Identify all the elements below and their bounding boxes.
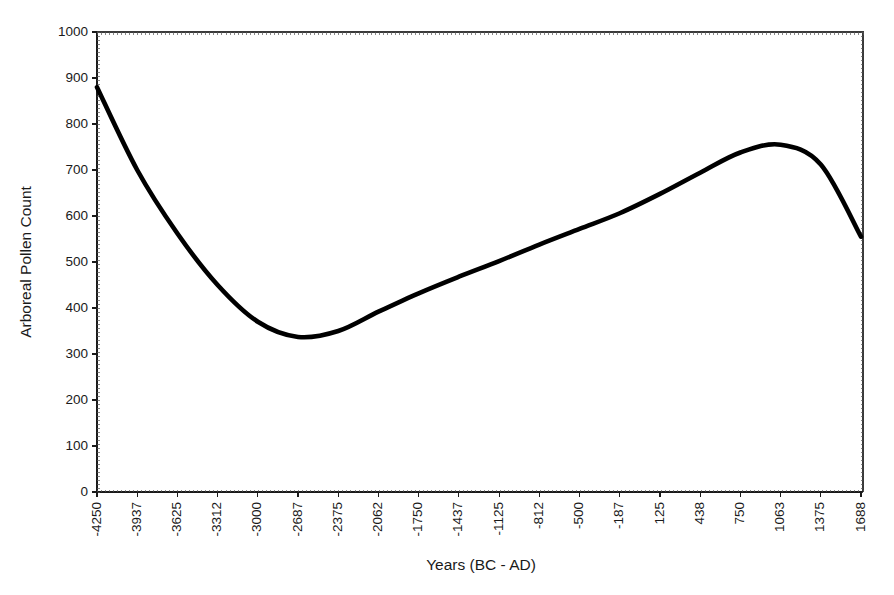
x-tick-label: -1125	[491, 502, 506, 536]
x-tick-label: 1688	[853, 502, 868, 532]
y-axis-title: Arboreal Pollen Count	[17, 185, 34, 337]
x-tick-label: -1750	[410, 502, 425, 537]
y-tick-label: 700	[65, 162, 88, 177]
x-tick-label: -3937	[129, 502, 144, 537]
x-tick-label: 750	[732, 502, 747, 525]
x-tick-label: 125	[652, 502, 667, 525]
x-tick-label: -187	[611, 502, 626, 529]
x-tick-label: -3000	[249, 502, 264, 537]
y-tick-label: 0	[80, 484, 88, 499]
x-tick-label: -1437	[450, 502, 465, 537]
x-tick-label: -500	[571, 502, 586, 529]
x-tick-label: -3625	[169, 502, 184, 537]
y-tick-label: 200	[65, 392, 88, 407]
pollen-count-chart-figure: 01002003004005006007008009001000 -4250-3…	[0, 0, 894, 595]
x-tick-label: -4250	[89, 502, 104, 537]
y-tick-label: 100	[65, 438, 88, 453]
y-tick-label: 600	[65, 208, 88, 223]
y-tick-label: 300	[65, 346, 88, 361]
y-tick-label: 500	[65, 254, 88, 269]
x-axis-title: Years (BC - AD)	[426, 556, 536, 573]
y-tick-label: 900	[65, 70, 88, 85]
x-tick-label: -2375	[330, 502, 345, 537]
x-tick-label: -2062	[370, 502, 385, 537]
x-tick-label: -812	[531, 502, 546, 529]
x-tick-label: -2687	[290, 502, 305, 537]
x-tick-label: 438	[692, 502, 707, 525]
y-tick-label: 800	[65, 116, 88, 131]
x-tick-label: 1375	[812, 502, 827, 532]
x-tick-label: -3312	[209, 502, 224, 537]
y-tick-label: 400	[65, 300, 88, 315]
y-tick-label: 1000	[58, 24, 88, 39]
x-tick-label: 1063	[772, 502, 787, 532]
chart-canvas: 01002003004005006007008009001000 -4250-3…	[0, 0, 894, 595]
